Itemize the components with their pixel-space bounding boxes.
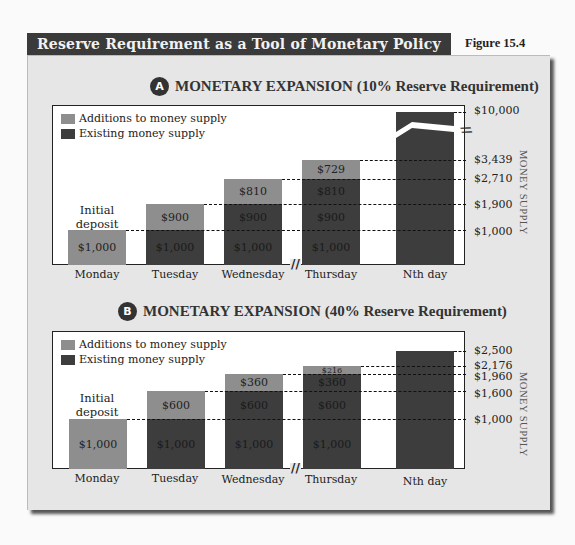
axis-break-icon — [396, 112, 454, 265]
panel-b-plot: Additions to money supply Existing money… — [52, 331, 465, 469]
seg-existing: $1,000 — [303, 419, 361, 469]
seg-existing: $1,000 — [147, 419, 205, 469]
panel-b-legend: Additions to money supply Existing money… — [61, 337, 227, 367]
bar-nth-day — [396, 112, 454, 265]
tick-1000: $1,000 — [474, 225, 513, 238]
guide-1000 — [126, 230, 466, 231]
seg-existing: $1,000 — [224, 230, 282, 265]
bar-thursday: $216 $360 $600 $1,000 — [303, 366, 361, 469]
guide-10000 — [454, 112, 466, 113]
x-axis-break-icon: // — [290, 463, 301, 473]
guide-2176 — [361, 366, 466, 367]
tick-2710: $2,710 — [474, 172, 513, 185]
additions-swatch-icon — [61, 114, 75, 124]
panel-a-legend: Additions to money supply Existing money… — [61, 111, 227, 141]
legend-additions: Additions to money supply — [61, 337, 227, 352]
legend-existing: Existing money supply — [61, 126, 227, 141]
x-label-wednesday: Wednesday — [208, 268, 298, 281]
guide-1960 — [283, 374, 466, 375]
legend-additions-label: Additions to money supply — [79, 338, 227, 351]
bar-tuesday: $600 $1,000 — [147, 391, 205, 469]
additions-swatch-icon — [61, 340, 75, 350]
x-label-tuesday: Tuesday — [130, 472, 220, 485]
tick-1600: $1,600 — [474, 387, 513, 400]
seg-addition: $729 — [302, 160, 360, 179]
bar-wednesday: $810 $900 $1,000 — [224, 179, 282, 265]
seg-addition: $1,000 — [69, 419, 127, 469]
x-label-tuesday: Tuesday — [130, 268, 220, 281]
seg-existing: $810 — [302, 179, 360, 204]
tick-1900: $1,900 — [474, 198, 513, 211]
bar-tuesday: $900 $1,000 — [146, 204, 204, 265]
guide-1900 — [204, 204, 466, 205]
panel-b-badge-icon: B — [118, 302, 137, 321]
x-label-monday: Monday — [52, 472, 142, 485]
seg-existing: $360 — [303, 374, 361, 391]
existing-swatch-icon — [61, 355, 75, 365]
guide-1000 — [127, 419, 466, 420]
x-label-thursday: Thursday — [286, 268, 376, 281]
panel-b-y-axis-title: MONEY SUPPLY — [518, 372, 529, 457]
initial-label-line2: deposit — [57, 405, 137, 419]
x-label-nth-day: Nth day — [380, 475, 470, 488]
legend-additions-label: Additions to money supply — [79, 112, 227, 125]
existing-swatch-icon — [61, 129, 75, 139]
bar-wednesday: $360 $600 $1,000 — [225, 374, 283, 469]
seg-addition: $360 — [225, 374, 283, 391]
bar-monday: $1,000 — [68, 230, 126, 265]
panel-a-y-axis-title: MONEY SUPPLY — [518, 150, 529, 235]
bar-nth-day — [396, 351, 454, 469]
seg-existing: $600 — [303, 391, 361, 419]
legend-additions: Additions to money supply — [61, 111, 227, 126]
seg-existing: $1,000 — [225, 419, 283, 469]
seg-existing: $1,000 — [146, 230, 204, 265]
legend-existing: Existing money supply — [61, 352, 227, 367]
panel-a-title: AMONETARY EXPANSION (10% Reserve Require… — [150, 77, 539, 96]
panel-b-title: BMONETARY EXPANSION (40% Reserve Require… — [118, 302, 507, 321]
tick-3439: $3,439 — [474, 153, 513, 166]
panel-a-plot: Additions to money supply Existing money… — [52, 105, 465, 265]
initial-label-line1: Initial — [57, 203, 137, 217]
seg-existing: $1,000 — [302, 230, 360, 265]
x-label-wednesday: Wednesday — [208, 473, 298, 486]
panel-a-badge-icon: A — [150, 77, 169, 96]
seg-addition: $1,000 — [68, 230, 126, 265]
panel-b-title-text: MONETARY EXPANSION (40% Reserve Requirem… — [143, 303, 507, 319]
initial-label-line2: deposit — [57, 217, 137, 231]
guide-2710 — [282, 179, 466, 180]
seg-existing: $900 — [302, 204, 360, 230]
guide-3439 — [360, 160, 466, 161]
initial-deposit-label: Initial deposit — [57, 203, 137, 231]
initial-deposit-label: Initial deposit — [57, 391, 137, 419]
bar-thursday: $729 $810 $900 $1,000 — [302, 160, 360, 265]
seg-addition: $600 — [147, 391, 205, 419]
bar-monday: $1,000 — [69, 419, 127, 469]
tick-10000: $10,000 — [474, 104, 520, 117]
seg-existing: $900 — [224, 204, 282, 230]
seg-existing: $600 — [225, 391, 283, 419]
guide-1600 — [205, 391, 466, 392]
tick-1960: $1,960 — [474, 370, 513, 383]
seg-addition: $810 — [224, 179, 282, 204]
tick-2500: $2,500 — [474, 344, 513, 357]
figure-title: Reserve Requirement as a Tool of Monetar… — [27, 33, 451, 55]
guide-2500 — [454, 351, 466, 352]
seg-addition: $216 — [303, 366, 361, 374]
x-label-thursday: Thursday — [286, 473, 376, 486]
legend-existing-label: Existing money supply — [79, 353, 205, 366]
tick-1000: $1,000 — [474, 413, 513, 426]
panel-a-title-text: MONETARY EXPANSION (10% Reserve Requirem… — [175, 78, 539, 94]
legend-existing-label: Existing money supply — [79, 127, 205, 140]
x-label-nth-day: Nth day — [380, 268, 470, 281]
figure-number: Figure 15.4 — [465, 36, 525, 51]
x-label-monday: Monday — [52, 268, 142, 281]
initial-label-line1: Initial — [57, 391, 137, 405]
seg-addition: $900 — [146, 204, 204, 230]
